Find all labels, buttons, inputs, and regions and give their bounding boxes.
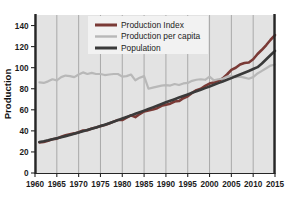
legend-label-production-per-capita: Production per capita <box>121 31 200 41</box>
x-tick-label: 1975 <box>91 180 110 189</box>
x-tick-label: 1960 <box>26 180 45 189</box>
x-tick-label: 1990 <box>157 180 176 189</box>
legend-label-population: Population <box>121 43 161 53</box>
y-tick-label: 60 <box>19 106 29 115</box>
x-tick-label: 2015 <box>266 180 285 189</box>
y-tick-label: 40 <box>19 127 29 136</box>
y-tick-label: 100 <box>15 64 29 73</box>
chart-canvas: 020406080100120140 196019651970197519801… <box>0 0 295 203</box>
x-tick-label: 2010 <box>244 180 263 189</box>
y-tick-label: 120 <box>15 43 29 52</box>
production-chart-figure: 020406080100120140 196019651970197519801… <box>0 0 295 203</box>
legend-label-production-index: Production Index <box>121 20 185 30</box>
x-tick-label: 1995 <box>179 180 198 189</box>
y-axis-ticks: 020406080100120140 <box>15 22 35 178</box>
x-axis-ticks: 1960196519701975198019851990199520002005… <box>26 173 285 189</box>
y-tick-label: 80 <box>19 85 29 94</box>
y-tick-label: 140 <box>15 22 29 31</box>
x-tick-label: 2000 <box>200 180 219 189</box>
x-tick-label: 1970 <box>70 180 89 189</box>
y-tick-label: 0 <box>24 169 29 178</box>
x-tick-label: 1965 <box>48 180 67 189</box>
x-tick-label: 1980 <box>113 180 132 189</box>
chart-legend: Production IndexProduction per capitaPop… <box>88 16 208 54</box>
x-tick-label: 2005 <box>222 180 241 189</box>
figure-caption-strip <box>0 195 295 203</box>
y-axis-title: Production <box>2 69 13 120</box>
y-tick-label: 20 <box>19 148 29 157</box>
x-tick-label: 1985 <box>135 180 154 189</box>
